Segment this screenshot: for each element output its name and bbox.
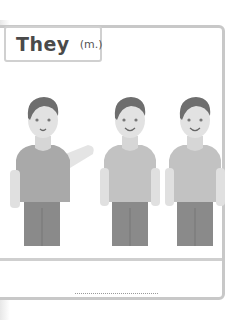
answer-writing-line[interactable] xyxy=(75,293,158,294)
man-standing-illustration xyxy=(98,90,162,250)
gender-note: (m.) xyxy=(80,38,103,51)
man-gesturing-illustration xyxy=(8,90,98,250)
card-divider xyxy=(0,258,222,261)
man-standing-illustration xyxy=(163,90,227,250)
pronoun-title: They xyxy=(16,33,70,55)
pronoun-label: They (m.) xyxy=(4,26,102,62)
